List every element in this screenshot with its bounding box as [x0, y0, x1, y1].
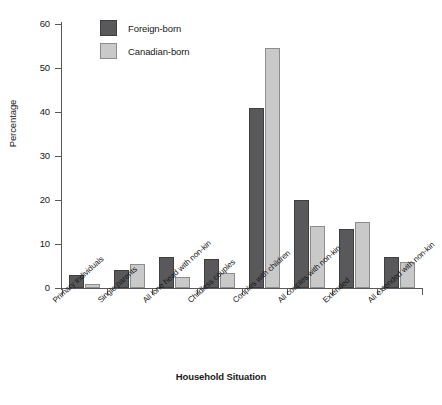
y-axis-tick	[55, 200, 61, 201]
x-axis-tick	[422, 289, 423, 295]
bar-canadian-born-primary-individuals	[85, 284, 100, 288]
y-axis-tick	[55, 24, 61, 25]
bar-canadian-born-couples-with-children	[265, 48, 280, 288]
y-axis-tick	[55, 156, 61, 157]
bar-canadian-born-extended	[355, 222, 370, 288]
y-axis-tick-label: 40	[0, 106, 50, 117]
y-axis-tick	[55, 244, 61, 245]
light-gray-swatch-icon	[100, 43, 117, 59]
y-axis-tick-label: 50	[0, 62, 50, 73]
dark-gray-swatch-icon	[100, 20, 117, 36]
x-axis-title: Household Situation	[0, 371, 442, 382]
y-axis-tick-label: 10	[0, 238, 50, 249]
legend-item-foreign-born: Foreign-born	[100, 18, 190, 38]
y-axis-tick-label: 0	[0, 282, 50, 293]
y-axis-tick-label: 60	[0, 18, 50, 29]
y-axis-tick-label: 30	[0, 150, 50, 161]
legend-item-canadian-born: Canadian-born	[100, 41, 190, 61]
y-axis-tick-label: 20	[0, 194, 50, 205]
legend-label-foreign-born: Foreign-born	[128, 23, 181, 34]
y-axis-tick	[55, 68, 61, 69]
legend-label-canadian-born: Canadian-born	[128, 46, 190, 57]
bar-chart: Percentage 0102030405060 Primary individ…	[0, 0, 442, 405]
bar-foreign-born-couples-with-children	[249, 108, 264, 288]
y-axis-tick	[55, 112, 61, 113]
chart-legend: Foreign-born Canadian-born	[100, 18, 190, 64]
bar-canadian-born-all-lone-head-with-non-kin	[175, 277, 190, 288]
